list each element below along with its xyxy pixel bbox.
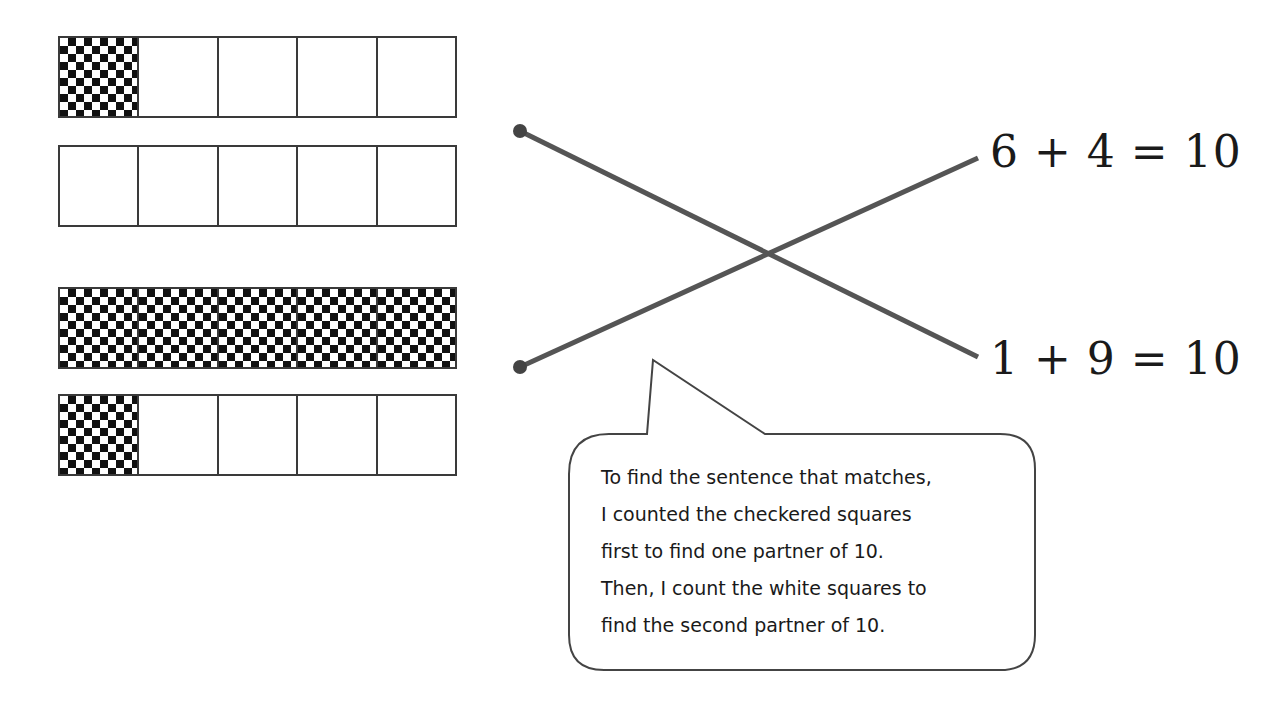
connector-line-bottom-to-6-plus-4[interactable] [513,158,978,374]
bubble-line: To find the sentence that matches, [601,459,1021,496]
endpoint-dot-icon[interactable] [513,360,527,374]
connector-line-top-to-1-plus-9[interactable] [513,124,978,357]
bubble-line: Then, I count the white squares to [601,570,1021,607]
speech-bubble-text: To find the sentence that matches, I cou… [601,459,1021,644]
equation-1-plus-9: 1 + 9 = 10 [990,333,1242,384]
equation-6-plus-4: 6 + 4 = 10 [990,126,1242,177]
bubble-line: find the second partner of 10. [601,607,1021,644]
endpoint-dot-icon[interactable] [513,124,527,138]
bubble-line: first to find one partner of 10. [601,533,1021,570]
bubble-line: I counted the checkered squares [601,496,1021,533]
